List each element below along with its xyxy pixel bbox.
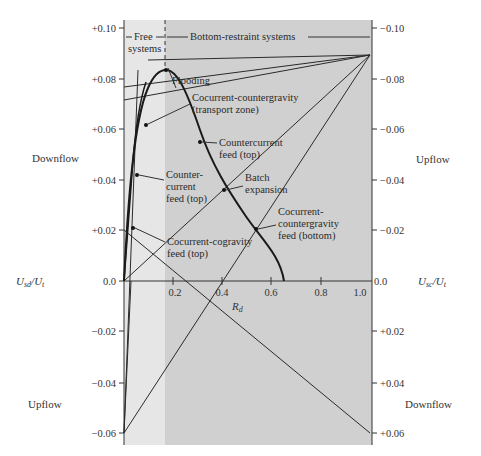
cocurrent-bottom-label: countergravity <box>278 218 340 229</box>
left-tick-label: 0.0 <box>103 276 116 287</box>
left-axis-title: Usd/Ut <box>16 275 45 289</box>
cocurrent-bottom-label: feed (bottom) <box>278 230 336 242</box>
chart-figure: +0.10 +0.08 +0.06 +0.04 +0.02 0.0 −0.02 … <box>0 0 481 456</box>
batch-expansion-label: expansion <box>245 184 288 195</box>
right-tick-label: −0.08 <box>380 74 404 85</box>
left-upflow-label: Upflow <box>28 398 62 410</box>
left-downflow-label: Downflow <box>32 152 79 164</box>
transport-zone-label: (transport zone) <box>192 104 259 116</box>
countercurrent-feed-label: feed (top) <box>219 149 261 161</box>
left-tick-label: −0.06 <box>92 428 116 439</box>
cocurrent-bottom-label: Cocurrent- <box>278 206 324 217</box>
right-upflow-label: Upflow <box>416 153 450 165</box>
right-tick-label: −0.06 <box>380 124 404 135</box>
right-tick-label: 0.0 <box>374 276 387 287</box>
free-systems-label: Free <box>134 31 153 42</box>
bottom-restraint-label: Bottom-restraint systems <box>190 31 295 42</box>
left-tick-label: −0.04 <box>92 378 117 389</box>
left-tick-label: +0.02 <box>92 225 116 236</box>
right-tick-label: −0.02 <box>380 225 404 236</box>
free-systems-label: systems <box>128 43 161 54</box>
left-tick-label: +0.06 <box>92 124 116 135</box>
right-ticks <box>372 28 377 433</box>
x-tick-label: 1.0 <box>353 287 366 298</box>
cocurrent-cogravity-label: Cocurrent-cogravity <box>167 236 253 247</box>
right-tick-label: +0.04 <box>380 378 405 389</box>
x-tick-label: 0.8 <box>314 287 327 298</box>
right-tick-label: +0.02 <box>380 326 404 337</box>
right-tick-label: +0.06 <box>380 428 404 439</box>
right-tick-label: −0.04 <box>380 175 405 186</box>
right-downflow-label: Downflow <box>405 398 452 410</box>
right-axis-title: Usc/Ut <box>418 275 447 289</box>
counter-current-feed-label: current <box>166 181 196 192</box>
left-tick-label: +0.04 <box>92 175 117 186</box>
right-tick-label: −0.10 <box>380 23 404 34</box>
left-tick-label: −0.02 <box>92 326 116 337</box>
x-tick-label: 0.2 <box>168 287 181 298</box>
counter-current-feed-label: feed (top) <box>166 193 208 205</box>
left-tick-label: +0.10 <box>92 23 116 34</box>
left-tick-label: +0.08 <box>92 74 116 85</box>
left-ticks <box>119 28 124 433</box>
flooding-label: Flooding <box>172 75 211 86</box>
cocurrent-cogravity-label: feed (top) <box>167 248 209 260</box>
x-tick-label: 0.6 <box>264 287 277 298</box>
batch-expansion-label: Batch <box>245 172 270 183</box>
counter-current-feed-label: Counter- <box>166 169 204 180</box>
transport-zone-label: Cocurrent-countergravity <box>192 92 299 103</box>
countercurrent-feed-label: Countercurrent <box>219 137 283 148</box>
